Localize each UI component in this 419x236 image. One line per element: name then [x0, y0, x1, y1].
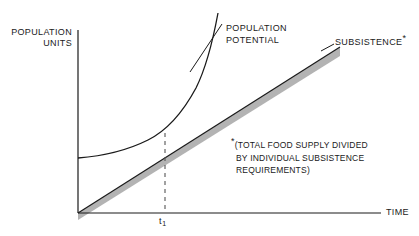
y-axis-title: POPULATIONUNITS: [10, 27, 72, 49]
series-label-population-potential-line2: POTENTIAL: [226, 35, 279, 45]
subsistence-band: [78, 47, 340, 220]
x-axis-tick-label-t1: t1: [159, 216, 166, 227]
footnote-line3: REQUIREMENTS): [231, 164, 368, 177]
tick-label-t1-subscript: 1: [162, 220, 166, 227]
subsistence-footnote-marker: *: [402, 33, 406, 43]
footnote-line2: BY INDIVIDUAL SUBSISTENCE: [231, 152, 368, 165]
x-axis-title: TIME: [386, 207, 409, 218]
series-label-subsistence-text: SUBSISTENCE: [335, 37, 402, 47]
series-label-population-potential: POPULATIONPOTENTIAL: [226, 22, 287, 46]
series-label-population-potential-line1: POPULATION: [226, 23, 287, 33]
y-axis-title-line1: POPULATION: [11, 27, 72, 37]
footnote: *(TOTAL FOOD SUPPLY DIVIDEDBY INDIVIDUAL…: [231, 139, 368, 177]
population-subsistence-chart: POPULATIONUNITS TIME POPULATIONPOTENTIAL…: [0, 0, 419, 236]
subsistence-leader-line: [321, 44, 334, 51]
y-axis-title-line2: UNITS: [43, 38, 72, 48]
footnote-line1: (TOTAL FOOD SUPPLY DIVIDED: [235, 140, 368, 150]
population-potential-curve: [78, 13, 218, 158]
subsistence-band-edge: [78, 47, 340, 213]
series-label-subsistence: SUBSISTENCE*: [335, 37, 406, 48]
